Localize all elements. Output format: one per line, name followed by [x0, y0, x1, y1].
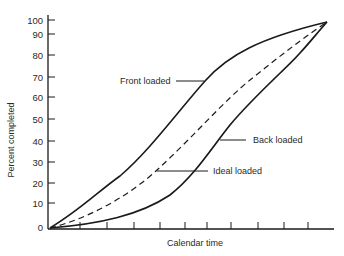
- y-tick-90: 90: [32, 29, 43, 40]
- front-loaded-label: Front loaded: [120, 76, 171, 86]
- y-tick-80: 80: [32, 50, 43, 61]
- ideal-loaded-curve: [50, 22, 327, 228]
- back-loaded-curve: [50, 22, 327, 228]
- y-tick-70: 70: [32, 72, 43, 83]
- y-ticks: [48, 20, 55, 203]
- x-ticks: [80, 222, 308, 229]
- y-tick-50: 50: [32, 114, 43, 125]
- y-axis-title: Percent completed: [6, 102, 16, 177]
- y-tick-100: 100: [27, 15, 43, 26]
- y-tick-30: 30: [32, 157, 43, 168]
- back-loaded-label: Back loaded: [253, 135, 303, 145]
- y-tick-labels: 0 10 20 30 40 50 60 70 80 90 100: [27, 15, 43, 233]
- s-curve-chart: 0 10 20 30 40 50 60 70 80 90 100 Percent…: [0, 0, 344, 256]
- y-tick-60: 60: [32, 92, 43, 103]
- front-loaded-curve: [50, 22, 327, 228]
- y-tick-0: 0: [38, 222, 43, 233]
- x-axis-title: Calendar time: [167, 238, 223, 248]
- y-tick-20: 20: [32, 178, 43, 189]
- y-tick-10: 10: [32, 198, 43, 209]
- y-tick-40: 40: [32, 136, 43, 147]
- ideal-loaded-label: Ideal loaded: [213, 166, 262, 176]
